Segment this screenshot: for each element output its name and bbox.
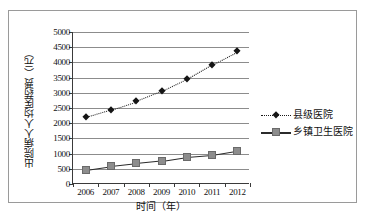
x-axis-title: 时间（年）: [72, 201, 249, 212]
y-axis-tick-label: 3500: [53, 73, 70, 82]
y-axis-title: 出院病人人均医药费（元）: [23, 32, 36, 184]
data-point-marker: [158, 157, 166, 165]
gridline: [73, 62, 249, 63]
y-axis-tick-label: 2500: [53, 104, 70, 113]
chart-legend: 县级医院乡镇卫生医院: [261, 106, 353, 140]
gridline: [73, 78, 249, 79]
legend-label: 乡镇卫生医院: [293, 126, 353, 137]
data-point-marker: [82, 166, 90, 174]
gridline: [73, 123, 249, 124]
x-axis-tick-label: 2006: [77, 188, 94, 197]
y-axis-tick-label: 5000: [53, 28, 70, 37]
legend-key: [261, 110, 291, 120]
y-axis-tick-label: 1000: [53, 149, 70, 158]
y-axis-tick-label: 4000: [53, 58, 70, 67]
x-axis-tick-label: 2011: [204, 188, 220, 197]
chart-figure: 出院病人人均医药费（元） 050010001500200025003000350…: [8, 10, 357, 203]
x-tick-mark: [250, 183, 251, 187]
legend-marker: [272, 128, 280, 136]
x-tick-mark: [98, 183, 99, 187]
data-point-marker: [107, 162, 115, 170]
gridline: [73, 138, 249, 139]
legend-key: [261, 127, 291, 137]
data-point-marker: [82, 113, 89, 120]
x-tick-mark: [149, 183, 150, 187]
plot-area: 0500100015002000250030003500400045005000…: [72, 32, 249, 184]
y-axis-tick-label: 0: [66, 180, 70, 189]
x-tick-mark: [225, 183, 226, 187]
data-point-marker: [183, 153, 191, 161]
data-point-marker: [107, 106, 114, 113]
x-tick-mark: [73, 183, 74, 187]
y-axis-tick-label: 1500: [53, 134, 70, 143]
gridline: [73, 32, 249, 33]
x-axis-tick-label: 2007: [103, 188, 120, 197]
data-point-marker: [158, 88, 165, 95]
gridline: [73, 108, 249, 109]
x-axis-tick-label: 2010: [178, 188, 195, 197]
x-tick-mark: [199, 183, 200, 187]
y-axis-tick-label: 500: [57, 164, 70, 173]
x-tick-mark: [124, 183, 125, 187]
data-point-marker: [132, 159, 140, 167]
data-point-marker: [208, 151, 216, 159]
y-axis-tick-label: 2000: [53, 119, 70, 128]
legend-item[interactable]: 县级医院: [261, 106, 353, 123]
x-tick-mark: [174, 183, 175, 187]
legend-item[interactable]: 乡镇卫生医院: [261, 123, 353, 140]
y-axis-tick-label: 4500: [53, 43, 70, 52]
data-point-marker: [233, 147, 241, 155]
legend-label: 县级医院: [293, 109, 333, 120]
legend-marker: [272, 111, 279, 118]
gridline: [73, 47, 249, 48]
x-axis-tick-label: 2012: [229, 188, 246, 197]
x-axis-tick-label: 2008: [128, 188, 145, 197]
x-axis-tick-label: 2009: [153, 188, 170, 197]
y-axis-tick-label: 3000: [53, 88, 70, 97]
